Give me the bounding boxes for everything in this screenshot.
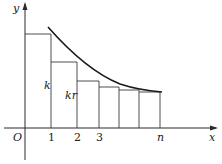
decay-curve	[48, 27, 162, 92]
y-axis-arrow-icon	[23, 2, 28, 10]
tick-label-3: 3	[96, 131, 103, 144]
rect-label-k: k	[44, 79, 51, 92]
rect-label-kr: kr	[65, 89, 78, 102]
origin-label: O	[13, 131, 22, 144]
y-axis-label: y	[12, 2, 20, 15]
diagram: y x O 1 2 3 n k kr	[0, 0, 222, 164]
tick-label-1: 1	[48, 131, 55, 144]
tick-label-2: 2	[74, 131, 81, 144]
x-axis-label: x	[209, 131, 216, 144]
tick-label-n: n	[157, 131, 164, 144]
x-axis-arrow-icon	[210, 126, 218, 131]
